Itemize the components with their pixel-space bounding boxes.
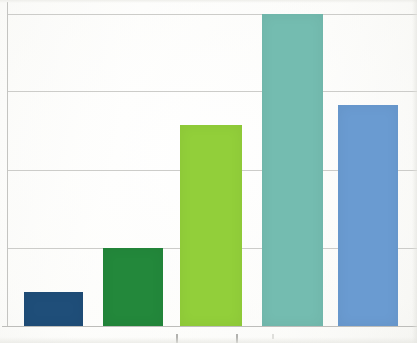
chart-bar-fill (24, 292, 83, 326)
axis-label-fragment (236, 334, 238, 343)
bars-layer (0, 0, 417, 343)
chart-bar (24, 292, 83, 326)
chart-bar-fill (103, 248, 163, 326)
axis-label-fragment (272, 334, 274, 339)
chart-bar-fill (262, 14, 323, 326)
chart-bar (338, 105, 398, 326)
chart-bar (180, 125, 242, 326)
chart-bar (103, 248, 163, 326)
bar-chart-figure (0, 0, 417, 343)
chart-bar (262, 14, 323, 326)
axis-label-fragments (0, 332, 417, 343)
axis-label-fragment (176, 334, 178, 343)
chart-bar-fill (180, 125, 242, 326)
chart-bar-fill (338, 105, 398, 326)
